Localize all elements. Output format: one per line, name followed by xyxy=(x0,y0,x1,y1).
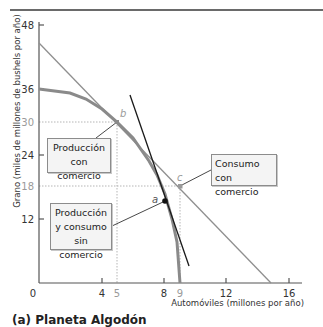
callout-line: con comercio xyxy=(51,155,107,183)
point-b xyxy=(115,120,119,124)
x-tick-5: 5 xyxy=(114,288,120,299)
callout-line: sin comercio xyxy=(54,234,108,262)
callout-line: Producción xyxy=(51,141,107,155)
y-axis-title: Grano (miles de millones de bushels por … xyxy=(12,14,22,207)
x-tick-4: 4 xyxy=(99,288,105,299)
y-tick-48: 48 xyxy=(21,20,34,31)
point-a xyxy=(162,198,168,204)
callout-no-trade: Producción y consumo sin comercio xyxy=(50,203,112,250)
x-tick-0: 0 xyxy=(30,288,36,299)
leader-lines xyxy=(96,122,211,226)
y-tick-30: 30 xyxy=(21,117,34,128)
y-tick-24: 24 xyxy=(21,150,34,161)
callout-line: Producción xyxy=(54,206,108,220)
callout-production-with-trade: Producción con comercio xyxy=(47,138,111,173)
point-c xyxy=(178,184,183,189)
callout-line: comercio xyxy=(215,185,273,199)
label-a: a xyxy=(152,194,158,205)
x-axis-title: Automóviles (millones por año) xyxy=(171,298,304,308)
callout-line: Consumo con xyxy=(215,157,273,185)
y-tick-36: 36 xyxy=(21,84,34,95)
figure-caption: (a) Planeta Algodón xyxy=(12,313,147,327)
y-tick-12: 12 xyxy=(21,214,34,225)
label-c: c xyxy=(177,172,183,183)
y-tick-18: 18 xyxy=(21,181,34,192)
label-b: b xyxy=(120,108,126,119)
callout-consumption-with-trade: Consumo con comercio xyxy=(211,154,277,186)
x-tick-8: 8 xyxy=(161,288,167,299)
callout-line: y consumo xyxy=(54,220,108,234)
